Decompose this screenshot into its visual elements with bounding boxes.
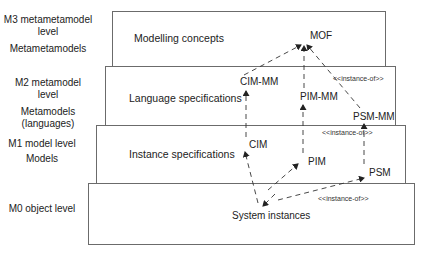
cim-mm-node: CIM-MM xyxy=(240,76,278,87)
pim-mm-node: PIM-MM xyxy=(300,91,338,102)
psm-mm-node: PSM-MM xyxy=(353,111,395,122)
m0-instance-of-label: <<instance-of>> xyxy=(318,195,369,202)
system-to-cim-arrow xyxy=(245,152,258,203)
mof-node: MOF xyxy=(310,30,332,41)
system-instances-node: System instances xyxy=(232,210,310,221)
m2-instance-of-label: <<instance-of>> xyxy=(333,75,384,82)
cim-node: CIM xyxy=(249,139,267,150)
system-backref-arrow xyxy=(263,194,275,206)
cim-mm-to-mof-arrow xyxy=(244,45,301,75)
m1-instance-of-label: <<instance-of>> xyxy=(322,129,373,136)
psm-node: PSM xyxy=(369,167,391,178)
pim-node: PIM xyxy=(308,156,326,167)
system-to-pim-arrow xyxy=(268,164,298,190)
